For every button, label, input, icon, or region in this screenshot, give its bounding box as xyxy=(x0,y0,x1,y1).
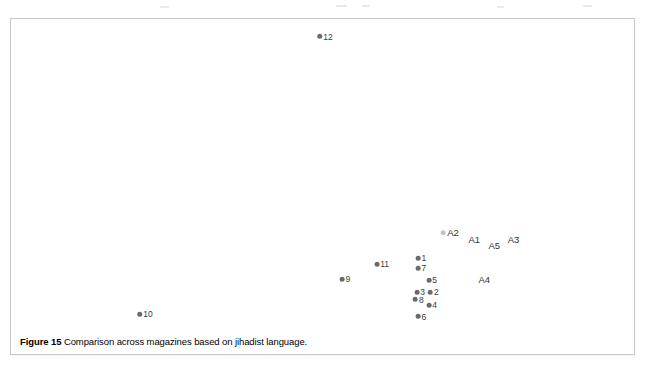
scan-speck xyxy=(497,6,504,8)
scatter-point-label: 11 xyxy=(380,260,389,269)
scatter-marker-icon xyxy=(340,276,345,281)
scatter-point-label: 10 xyxy=(143,310,152,319)
figure-caption: Figure 15 Comparison across magazines ba… xyxy=(20,336,625,347)
scatter-point-2[interactable]: 2 xyxy=(428,288,439,297)
scatter-point-label: A4 xyxy=(478,275,490,285)
scatter-point-label: 6 xyxy=(422,312,427,321)
figure-caption-number: Figure 15 xyxy=(20,336,61,347)
scatter-marker-icon xyxy=(317,34,322,39)
scatter-point-label: 2 xyxy=(434,288,439,297)
scatter-point-6[interactable]: 6 xyxy=(416,312,427,321)
scatter-marker-icon xyxy=(413,297,418,302)
scan-speck xyxy=(336,5,347,7)
scatter-point-label: A5 xyxy=(488,241,500,251)
scatter-point-label: A1 xyxy=(468,235,480,245)
scatter-point-label: 4 xyxy=(432,301,437,310)
scatter-marker-icon xyxy=(428,290,433,295)
scatter-marker-icon xyxy=(416,255,421,260)
scan-speck xyxy=(160,6,169,8)
scatter-marker-icon xyxy=(416,266,421,271)
scatter-point-label: 7 xyxy=(422,264,427,273)
scatter-point-7[interactable]: 7 xyxy=(416,264,427,273)
scatter-point-a5[interactable]: A5 xyxy=(486,241,500,251)
scatter-point-label: 8 xyxy=(419,295,424,304)
scatter-point-4[interactable]: 4 xyxy=(426,301,437,310)
scatter-plot-area: 12A2A1A5A3171159A43284610 xyxy=(11,19,634,324)
scatter-point-12[interactable]: 12 xyxy=(317,32,332,41)
scatter-point-a3[interactable]: A3 xyxy=(506,235,520,245)
scan-speck xyxy=(362,5,370,7)
scatter-point-label: A2 xyxy=(447,228,459,238)
figure-frame: 12A2A1A5A3171159A43284610 Figure 15 Comp… xyxy=(10,18,635,355)
scatter-marker-icon xyxy=(426,277,431,282)
scatter-point-label: 1 xyxy=(422,254,427,263)
scatter-point-1[interactable]: 1 xyxy=(416,254,427,263)
scatter-point-label: 12 xyxy=(323,32,332,41)
scatter-marker-icon xyxy=(137,311,142,316)
scatter-point-label: A3 xyxy=(508,235,520,245)
scatter-point-a1[interactable]: A1 xyxy=(466,235,480,245)
scatter-point-5[interactable]: 5 xyxy=(426,276,437,285)
scatter-point-a2[interactable]: A2 xyxy=(440,228,459,238)
scatter-point-label: 9 xyxy=(346,275,351,284)
scatter-point-9[interactable]: 9 xyxy=(340,275,351,284)
scatter-marker-icon xyxy=(440,230,445,235)
scatter-point-8[interactable]: 8 xyxy=(413,295,424,304)
scatter-point-a4[interactable]: A4 xyxy=(476,275,490,285)
figure-caption-text: Comparison across magazines based on jih… xyxy=(64,336,307,347)
scatter-marker-icon xyxy=(374,261,379,266)
scan-artifacts xyxy=(0,0,650,17)
scan-speck xyxy=(583,5,592,7)
scatter-marker-icon xyxy=(416,314,421,319)
scatter-point-10[interactable]: 10 xyxy=(137,310,152,319)
scatter-point-label: 5 xyxy=(432,276,437,285)
scatter-marker-icon xyxy=(426,302,431,307)
scatter-point-11[interactable]: 11 xyxy=(374,260,389,269)
